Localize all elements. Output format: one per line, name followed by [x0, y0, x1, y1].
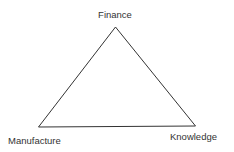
vertex-label-manufacture: Manufacture [8, 135, 61, 146]
vertex-label-finance: Finance [98, 9, 132, 20]
triangle-outline [39, 27, 196, 127]
vertex-label-knowledge: Knowledge [170, 131, 217, 142]
triangle-shape [0, 0, 234, 152]
triangle-diagram: Finance Manufacture Knowledge [0, 0, 234, 152]
